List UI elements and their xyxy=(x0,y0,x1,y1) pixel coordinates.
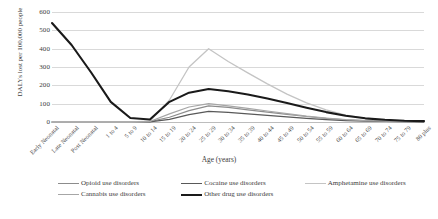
x-axis-tick-label: 25 to 29 xyxy=(197,124,217,144)
legend-label: Amphetamine use disorders xyxy=(328,180,406,187)
x-axis-tick-label: 20 to 24 xyxy=(177,124,197,144)
x-axis-tick-label: 60 to 64 xyxy=(334,124,354,144)
legend-swatch-icon xyxy=(181,183,202,184)
plot-area xyxy=(52,12,424,122)
legend-item[interactable]: Other drug use disorders xyxy=(181,191,304,198)
x-axis-tick-label: 5 to 9 xyxy=(123,124,138,139)
x-axis-tick-label: 35 to 39 xyxy=(236,124,256,144)
y-axis-tick-label: 0 xyxy=(46,118,50,126)
legend-swatch-icon xyxy=(58,194,79,195)
x-axis-tick-label: 1 to 4 xyxy=(104,124,119,139)
x-axis-tick-label: 70 to 74 xyxy=(373,124,393,144)
x-axis-tick-label: 65 to 69 xyxy=(354,124,374,144)
series-canvas xyxy=(52,12,424,122)
legend-swatch-icon xyxy=(58,183,79,184)
x-axis-tick-label: 30 to 34 xyxy=(217,124,237,144)
x-axis-tick-label: 50 to 54 xyxy=(295,124,315,144)
y-axis-tick-label: 300 xyxy=(39,63,50,71)
x-axis-title: Age (years) xyxy=(0,155,438,164)
y-axis-tick-label: 600 xyxy=(39,8,50,16)
legend-swatch-icon xyxy=(305,183,326,184)
series-line xyxy=(52,23,424,121)
legend-label: Cocaine use disorders xyxy=(204,180,265,187)
y-axis-tick-label: 500 xyxy=(39,26,50,34)
x-axis-tick-label: 45 to 49 xyxy=(275,124,295,144)
x-axis-tick-label: 75 to 79 xyxy=(393,124,413,144)
legend-item[interactable]: Opioid use disorders xyxy=(58,180,181,187)
y-axis-tick-label: 100 xyxy=(39,100,50,108)
legend-label: Other drug use disorders xyxy=(204,191,273,198)
x-axis-tick-label: 15 to 19 xyxy=(158,124,178,144)
chart-legend: Opioid use disordersCocaine use disorder… xyxy=(58,180,428,198)
x-axis-tick-label: 10 to 14 xyxy=(138,124,158,144)
x-axis-tick-labels: Early NeonatalLate NeonatalPost Neonatal… xyxy=(52,124,424,158)
y-axis-tick-label: 200 xyxy=(39,81,50,89)
legend-item[interactable]: Cocaine use disorders xyxy=(181,180,304,187)
x-axis-tick-label: 40 to 44 xyxy=(256,124,276,144)
legend-swatch-icon xyxy=(181,194,202,196)
y-axis-title: DALYs lost per 100,000 people xyxy=(16,0,24,111)
y-axis-tick-label: 400 xyxy=(39,45,50,53)
legend-label: Cannabis use disorders xyxy=(81,191,146,198)
legend-item[interactable]: Amphetamine use disorders xyxy=(305,180,428,187)
daly-line-chart: DALYs lost per 100,000 people 6005004003… xyxy=(0,0,438,219)
x-axis-tick-label: 55 to 59 xyxy=(314,124,334,144)
legend-label: Opioid use disorders xyxy=(81,180,139,187)
y-axis-tick-labels: 6005004003002001000 xyxy=(24,12,50,122)
legend-item[interactable]: Cannabis use disorders xyxy=(58,191,181,198)
x-axis-tick-label: 80 plus xyxy=(414,124,432,142)
series-line xyxy=(52,49,424,122)
